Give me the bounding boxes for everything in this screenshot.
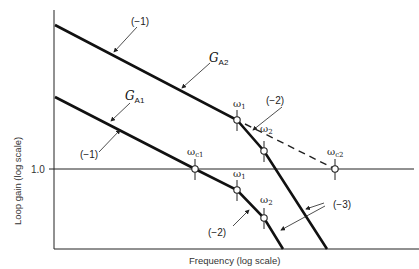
ga1-slope-2-label: (−2) [208, 227, 226, 238]
y-tick-unity: 1.0 [31, 164, 45, 175]
curve-ga1 [55, 97, 283, 249]
y-axis-label: Loop gain (log scale) [12, 137, 23, 225]
ga1-wc1-point [192, 166, 198, 172]
arrow-ga1-slope-1 [99, 130, 120, 152]
ga1-wc1-label: ωc1 [187, 146, 204, 159]
arrow-ga1-label [111, 103, 130, 121]
ga2-w1-label: ω1 [233, 98, 246, 111]
ga1-w1-point [234, 187, 240, 193]
ga2-wc2-label: ωc2 [327, 146, 344, 159]
arrow-ga2-slope-1 [114, 27, 137, 52]
curve-ga2 [55, 25, 327, 249]
ga1-w2-point [261, 215, 267, 221]
ga1-slope-1-label: (−1) [80, 149, 98, 160]
ga2-w2-label: ω2 [260, 123, 273, 136]
arrow-ga1-slope-2 [233, 210, 249, 226]
ga2-slope-1-label: (−1) [131, 16, 149, 27]
slope-3-label: (−3) [333, 199, 351, 210]
x-axis-label: Frequency (log scale) [189, 255, 280, 266]
ga2-w2-point [261, 148, 267, 154]
ga2-wc2-point [332, 166, 338, 172]
ga1-w1-label: ω1 [233, 168, 246, 181]
arrow-ga2-label [182, 63, 210, 88]
ga2-w1-point [234, 117, 240, 123]
ga1-label: GA1 [125, 89, 145, 105]
ga1-w2-label: ω2 [260, 194, 273, 207]
loop-gain-bode-diagram: (−1) (−1) (−2) (−2) (−3) GA2 GA1 ω1 ω2 ω… [0, 0, 419, 269]
ga2-label: GA2 [209, 51, 229, 67]
ga2-slope-2-label: (−2) [266, 95, 284, 106]
